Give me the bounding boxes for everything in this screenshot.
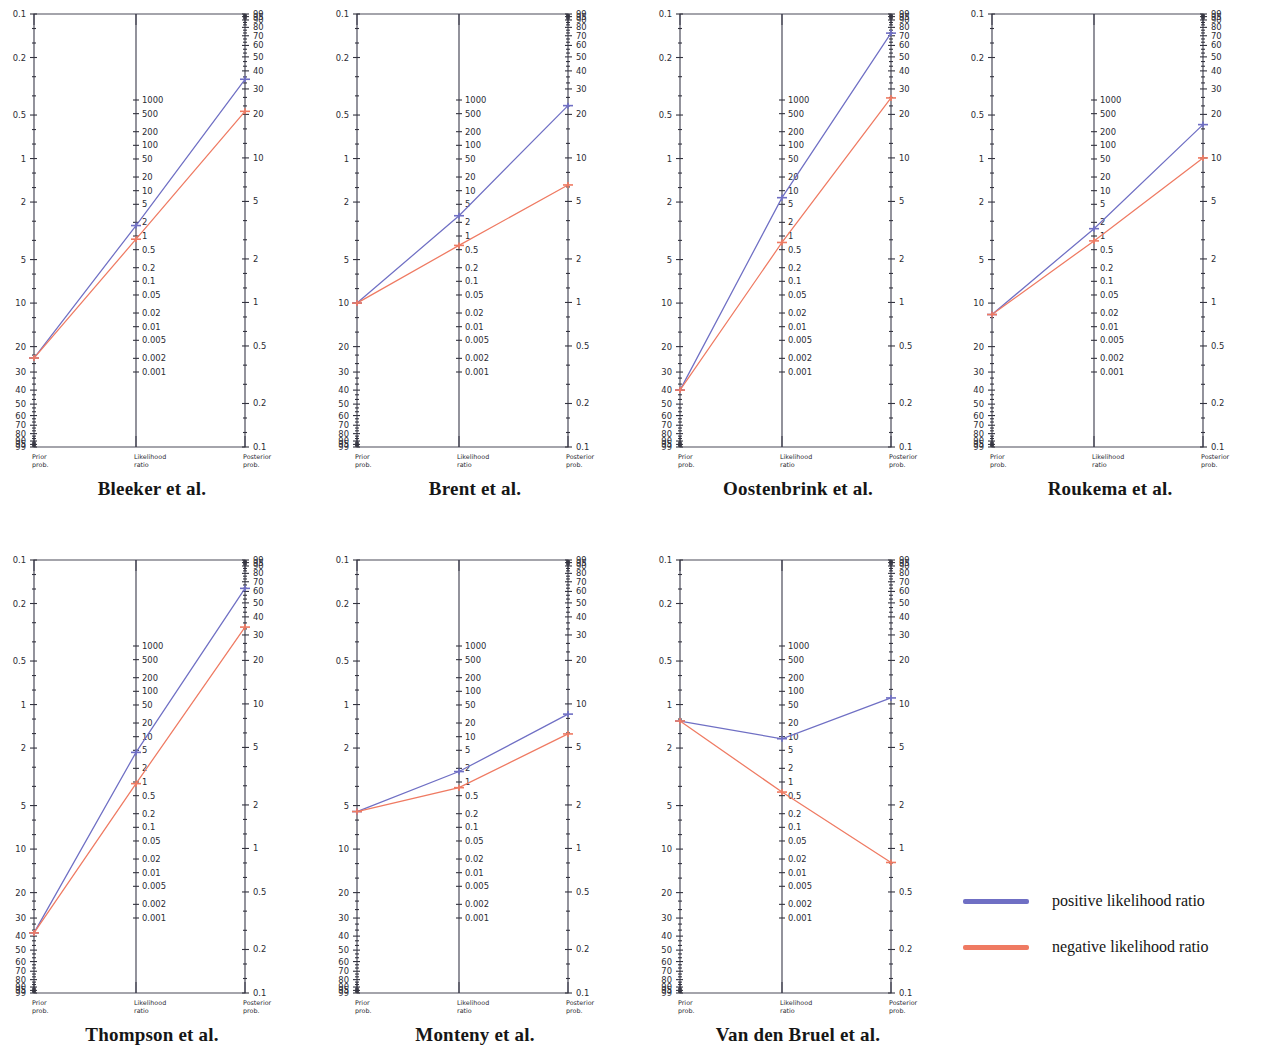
axis-tick-label: 0.001 — [465, 367, 489, 377]
axis-tick-label: 1000 — [788, 641, 809, 651]
axis-tick-label: 10 — [661, 844, 672, 854]
axis-caption-line: ratio — [780, 1007, 795, 1015]
series-line — [987, 122, 1208, 318]
axis-tick-label: 40 — [338, 931, 349, 941]
axis-tick-label: 200 — [788, 673, 804, 683]
nomogram-plot: 0.10.20.51251020304050607080909599100050… — [2, 546, 302, 1016]
axis-caption-line: ratio — [134, 461, 149, 469]
axis-tick-label: 20 — [338, 342, 349, 352]
axis-tick-label: 5 — [899, 742, 904, 752]
axis-tick-label: 1000 — [465, 641, 486, 651]
axis-caption-line: prob. — [678, 461, 695, 469]
axis-tick-label: 70 — [899, 31, 910, 41]
axis-tick-label: 5 — [576, 196, 581, 206]
axis-caption-line: prob. — [32, 461, 49, 469]
axis-tick-label: 60 — [338, 411, 349, 421]
axis-tick-label: 1000 — [1100, 95, 1121, 105]
axis-tick-label: 0.5 — [788, 245, 801, 255]
axis-tick-label: 1 — [576, 297, 581, 307]
axis-caption-line: Prior — [32, 453, 47, 461]
axis-tick-label: 0.5 — [1211, 341, 1224, 351]
nomogram-panel: 0.10.20.51251020304050607080909599100050… — [648, 546, 948, 1057]
axis-tick-label: 10 — [465, 732, 476, 742]
axis-tick-label: 60 — [661, 957, 672, 967]
axis-tick-label: 500 — [788, 655, 804, 665]
likelihood-ratio-axis: 10005002001005020105210.50.20.10.050.020… — [779, 560, 812, 993]
axis-tick-label: 200 — [788, 127, 804, 137]
posterior-probability-axis: 99959080706050403020105210.50.20.1 — [1200, 9, 1224, 452]
axis-tick-label: 50 — [576, 52, 587, 62]
axis-tick-label: 20 — [142, 718, 153, 728]
axis-tick-label: 0.1 — [13, 555, 26, 565]
axis-tick-label: 0.05 — [142, 836, 161, 846]
axis-tick-label: 2 — [667, 197, 672, 207]
axis-caption-line: Posterior — [566, 999, 595, 1007]
axis-tick-label: 2 — [788, 217, 793, 227]
axis-tick-label: 0.02 — [142, 854, 161, 864]
axis-tick-label: 0.05 — [788, 290, 807, 300]
panel-title: Bleeker et al. — [2, 478, 302, 500]
axis-tick-label: 50 — [338, 945, 349, 955]
axis-tick-label: 0.5 — [899, 341, 912, 351]
axis-tick-label: 50 — [788, 700, 799, 710]
series-line — [675, 95, 896, 393]
axis-tick-label: 0.2 — [788, 809, 801, 819]
axis-tick-label: 60 — [15, 411, 26, 421]
axis-tick-label: 2 — [788, 763, 793, 773]
axis-tick-label: 5 — [979, 255, 984, 265]
axis-tick-label: 40 — [15, 385, 26, 395]
axis-caption-line: prob. — [990, 461, 1007, 469]
nomogram-panel: 0.10.20.51251020304050607080909599100050… — [2, 546, 302, 1057]
axis-tick-label: 0.1 — [659, 9, 672, 19]
axis-caption: Likelihoodratio — [1092, 453, 1124, 469]
axis-tick-label: 30 — [338, 367, 349, 377]
nomogram-panel: 0.10.20.51251020304050607080909599100050… — [325, 546, 625, 1057]
axis-tick-label: 0.2 — [1100, 263, 1113, 273]
series-line — [352, 182, 573, 306]
axis-tick-label: 1000 — [142, 641, 163, 651]
axis-tick-label: 50 — [253, 52, 264, 62]
axis-tick-label: 10 — [253, 153, 264, 163]
axis-tick-label: 50 — [973, 399, 984, 409]
axis-tick-label: 70 — [899, 577, 910, 587]
axis-tick-label: 70 — [1211, 31, 1222, 41]
axis-tick-label: 1 — [21, 154, 26, 164]
series-line — [29, 585, 250, 936]
axis-tick-label: 0.5 — [13, 656, 26, 666]
axis-tick-label: 0.2 — [336, 599, 349, 609]
axis-tick-label: 60 — [661, 411, 672, 421]
axis-tick-label: 0.2 — [899, 944, 912, 954]
axis-tick-label: 99 — [661, 988, 672, 998]
axis-tick-label: 0.005 — [465, 335, 489, 345]
axis-tick-label: 0.5 — [899, 887, 912, 897]
axis-tick-label: 0.01 — [465, 322, 484, 332]
axis-tick-label: 0.1 — [971, 9, 984, 19]
axis-tick-label: 0.2 — [659, 53, 672, 63]
axis-tick-label: 5 — [667, 255, 672, 265]
axis-tick-label: 0.02 — [465, 854, 484, 864]
axis-caption: Likelihoodratio — [134, 453, 166, 469]
axis-tick-label: 50 — [465, 154, 476, 164]
axis-tick-label: 0.005 — [788, 881, 812, 891]
axis-caption-line: Posterior — [889, 999, 918, 1007]
axis-tick-label: 10 — [253, 699, 264, 709]
axis-caption: Priorprob. — [32, 999, 49, 1015]
axis-tick-label: 0.01 — [788, 322, 807, 332]
axis-tick-label: 0.5 — [253, 887, 266, 897]
panel-title: Van den Bruel et al. — [648, 1024, 948, 1046]
legend-color-swatch — [963, 899, 1029, 904]
axis-tick-label: 5 — [788, 199, 793, 209]
axis-tick-label: 0.02 — [1100, 308, 1119, 318]
axis-tick-label: 0.2 — [253, 398, 266, 408]
series-line — [352, 711, 573, 814]
axis-tick-label: 0.01 — [142, 868, 161, 878]
axis-tick-label: 99 — [15, 442, 26, 452]
axis-tick-label: 20 — [899, 109, 910, 119]
axis-tick-label: 10 — [1100, 186, 1111, 196]
axis-tick-label: 100 — [142, 686, 158, 696]
axis-tick-label: 30 — [661, 913, 672, 923]
axis-tick-label: 0.05 — [788, 836, 807, 846]
axis-tick-label: 60 — [576, 40, 587, 50]
axis-tick-label: 10 — [465, 186, 476, 196]
plot-frame — [680, 14, 891, 447]
